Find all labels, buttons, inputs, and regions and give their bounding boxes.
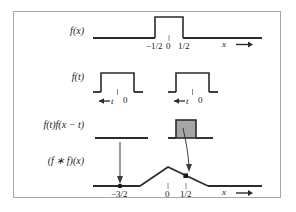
convolution-marker-one-half bbox=[183, 173, 188, 178]
ft-left-shift-label: t bbox=[111, 97, 114, 106]
row-label-ft: f(t) bbox=[18, 72, 84, 82]
product-to-convolution-arrow-head bbox=[186, 164, 192, 172]
ft-right-origin-label: 0 bbox=[198, 96, 203, 105]
convolution-triangle bbox=[140, 167, 208, 186]
convolution-tick-zero: 0 bbox=[165, 190, 170, 199]
fx-axis-label: x bbox=[222, 40, 226, 49]
convolution-tick-half: 1/2 bbox=[180, 190, 192, 199]
panel-product-graphics bbox=[95, 120, 213, 184]
convolution-axis-label: x bbox=[222, 188, 226, 197]
fx-pulse bbox=[155, 17, 183, 38]
convolution-figure: f(x) f(t) f(t)f(x − t) (f ∗ f)(x) −1/2 0… bbox=[0, 0, 296, 212]
fx-tick-half: 1/2 bbox=[178, 42, 190, 51]
convolution-tick-neg-three-halves: −3/2 bbox=[111, 190, 128, 199]
convolution-marker-neg-three-halves bbox=[118, 184, 123, 189]
ft-left-origin-label: 0 bbox=[123, 96, 128, 105]
fx-tick-neg-half: −1/2 bbox=[146, 42, 163, 51]
row-label-convolution: (f ∗ f)(x) bbox=[14, 156, 84, 166]
ft-right-shift-arrow-head bbox=[174, 98, 179, 103]
convolution-axis-arrow-head bbox=[248, 190, 253, 196]
fx-axis-arrow-head bbox=[248, 42, 253, 48]
row-label-product: f(t)f(x − t) bbox=[14, 120, 84, 130]
ft-left-shift-arrow-head bbox=[99, 98, 104, 103]
product-drop-arrow-head bbox=[117, 176, 123, 184]
ft-right-shift-label: t bbox=[186, 97, 189, 106]
row-label-fx: f(x) bbox=[18, 26, 84, 36]
product-overlap-region bbox=[176, 120, 196, 138]
fx-tick-zero: 0 bbox=[166, 42, 171, 51]
